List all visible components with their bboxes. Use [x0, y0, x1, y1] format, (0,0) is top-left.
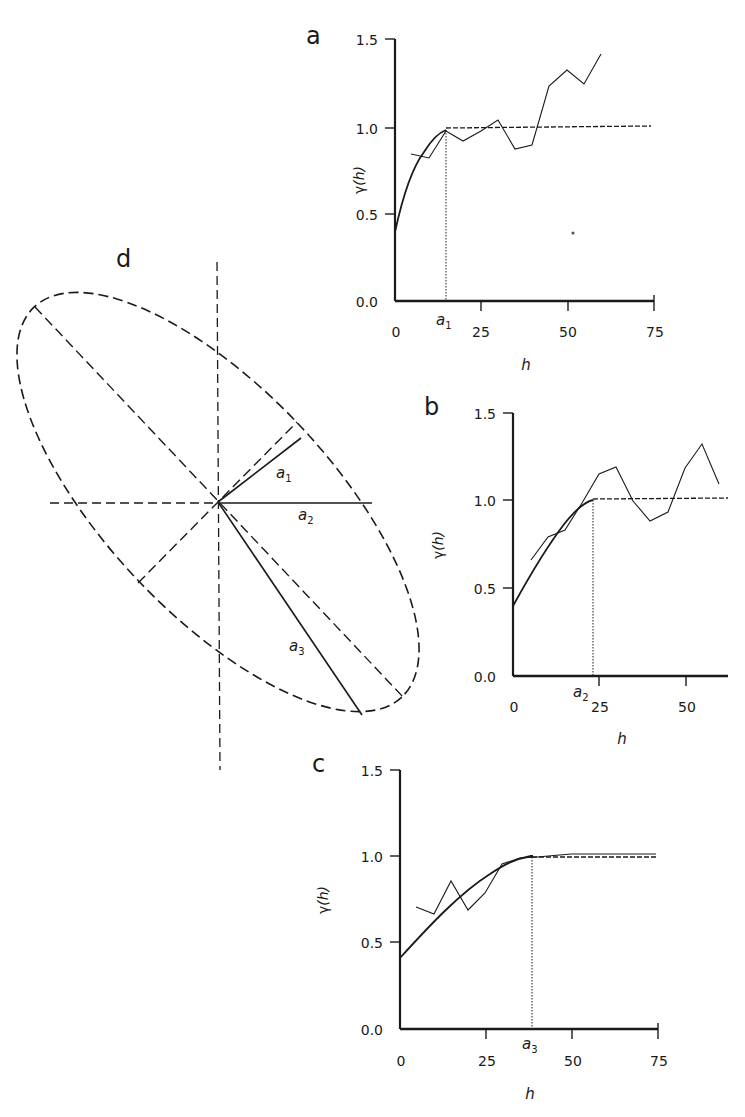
panel-a: a 1.5 1.0 0.5 0.0 0 25 50 75 h γ(h): [306, 22, 664, 374]
stray-dot: [571, 231, 574, 234]
panel-b: b 1.5 1.0 0.5 0.0 0 25 50 h γ(h) a2: [424, 393, 728, 748]
range-line-a1: [218, 438, 301, 502]
panel-c-plot: [400, 854, 656, 1029]
panel-c-x-label: h: [525, 1085, 535, 1103]
svg-text:25: 25: [472, 324, 490, 340]
label-a3: a3: [289, 637, 305, 657]
svg-text:25: 25: [591, 699, 609, 715]
svg-text:75: 75: [646, 324, 664, 340]
panel-c-x-ticks: 0 25 50 75: [397, 1053, 668, 1069]
svg-text:1.0: 1.0: [361, 849, 383, 865]
svg-text:50: 50: [564, 1053, 582, 1069]
panel-c-y-label: γ(h): [315, 886, 331, 914]
panel-b-plot: [513, 444, 728, 676]
svg-text:γ(h): γ(h): [430, 531, 446, 559]
svg-text:0: 0: [510, 699, 519, 715]
panel-a-plot: [395, 54, 651, 301]
panel-letter-b: b: [424, 393, 439, 421]
vertical-reference-axis: [217, 262, 220, 770]
svg-text:0.0: 0.0: [356, 294, 378, 310]
label-a2: a2: [298, 506, 314, 526]
panel-letter-c: c: [312, 750, 325, 778]
panel-c: c 1.5 1.0 0.5 0.0 0 25 50 75 h γ(h): [312, 750, 668, 1103]
svg-text:50: 50: [678, 699, 696, 715]
panel-letter-d: d: [116, 245, 131, 273]
svg-text:1.5: 1.5: [474, 406, 496, 422]
svg-text:0.5: 0.5: [361, 935, 383, 951]
anisotropy-ellipse: [0, 230, 483, 774]
panel-b-y-label: γ(h): [430, 531, 446, 559]
panel-a-x-ticks: 0 25 50 75: [392, 324, 664, 340]
svg-text:1.5: 1.5: [356, 32, 378, 48]
panel-b-axes: [503, 413, 728, 686]
svg-text:25: 25: [478, 1053, 496, 1069]
svg-text:1.0: 1.0: [474, 493, 496, 509]
panel-c-range-label: a3: [522, 1035, 538, 1055]
panel-b-x-ticks: 0 25 50: [510, 699, 696, 715]
svg-text:0: 0: [397, 1053, 406, 1069]
svg-text:0.5: 0.5: [356, 207, 378, 223]
svg-text:1.5: 1.5: [361, 763, 383, 779]
panel-b-y-ticks: 1.5 1.0 0.5 0.0: [474, 406, 496, 685]
variogram-figure: a 1.5 1.0 0.5 0.0 0 25 50 75 h γ(h): [0, 0, 745, 1117]
panel-a-x-label: h: [521, 356, 531, 374]
svg-text:0.5: 0.5: [474, 581, 496, 597]
svg-text:γ(h): γ(h): [351, 166, 367, 194]
svg-text:75: 75: [650, 1053, 668, 1069]
panel-d: d a1 a2 a3: [0, 230, 483, 774]
panel-a-axes: [385, 39, 654, 311]
svg-text:50: 50: [559, 324, 577, 340]
svg-text:γ(h): γ(h): [315, 886, 331, 914]
svg-text:0: 0: [392, 324, 401, 340]
panel-a-y-label: γ(h): [351, 166, 367, 194]
panel-a-range-label: a1: [436, 311, 452, 331]
range-line-a3: [218, 502, 362, 715]
panel-b-x-label: h: [617, 730, 627, 748]
panel-letter-a: a: [306, 22, 321, 50]
svg-text:0.0: 0.0: [474, 669, 496, 685]
panel-b-range-label: a2: [573, 683, 589, 703]
svg-text:0.0: 0.0: [361, 1022, 383, 1038]
panel-c-y-ticks: 1.5 1.0 0.5 0.0: [361, 763, 383, 1038]
svg-text:1.0: 1.0: [356, 121, 378, 137]
panel-c-axes: [390, 770, 658, 1039]
label-a1: a1: [276, 464, 292, 484]
